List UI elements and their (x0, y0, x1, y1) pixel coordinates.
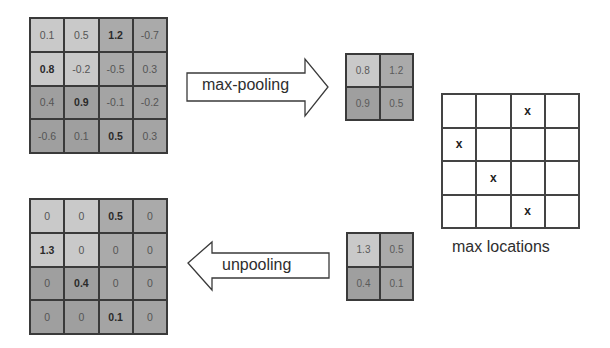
grid-cell: 0 (133, 233, 167, 267)
grid-cell (545, 128, 579, 162)
grid-cell: 0 (133, 267, 167, 301)
grid-cell: 0 (30, 199, 64, 233)
grid-cell (442, 161, 476, 195)
unpooled-output-map: 000.501.300000.400000.10 (29, 198, 168, 335)
max-locations-grid: xxxx (441, 93, 580, 229)
grid-cell: 0 (133, 199, 167, 233)
max-location-marker: x (511, 195, 545, 229)
grid-cell: 0 (64, 300, 98, 334)
grid-cell (476, 94, 510, 128)
grid-cell (511, 161, 545, 195)
grid-cell: 0 (99, 267, 133, 301)
grid-cell: 0 (133, 300, 167, 334)
grid-cell: 0.1 (99, 300, 133, 334)
grid-cell: 0 (64, 233, 98, 267)
max-location-marker: x (442, 128, 476, 162)
grid-cell (545, 161, 579, 195)
grid-cell: 0.4 (64, 267, 98, 301)
grid-cell: 0.4 (347, 267, 380, 301)
max-location-marker: x (511, 94, 545, 128)
grid-cell (511, 128, 545, 162)
grid-cell: 0.5 (380, 87, 414, 120)
grid-cell: 0.5 (380, 233, 413, 267)
grid-cell: 0.9 (346, 87, 380, 120)
grid-cell: 0 (30, 300, 64, 334)
grid-cell: 0 (64, 199, 98, 233)
grid-cell: 0 (30, 267, 64, 301)
grid-cell (442, 195, 476, 229)
grid-cell: 1.2 (380, 54, 414, 87)
grid-cell: 0.5 (99, 199, 133, 233)
grid-cell (442, 94, 476, 128)
max-pooling-label: max-pooling (202, 76, 289, 94)
pooled-feature-map: 0.81.20.90.5 (345, 53, 414, 121)
grid-cell: 0 (99, 233, 133, 267)
grid-cell: 1.3 (347, 233, 380, 267)
unpooling-label: unpooling (222, 256, 291, 274)
grid-cell (545, 195, 579, 229)
grid-cell (476, 195, 510, 229)
grid-cell: 1.3 (30, 233, 64, 267)
unpool-input-map: 1.30.50.40.1 (346, 232, 414, 301)
max-locations-label: max locations (452, 238, 550, 256)
grid-cell (545, 94, 579, 128)
max-location-marker: x (476, 161, 510, 195)
grid-cell: 0.1 (380, 267, 413, 301)
grid-cell: 0.8 (346, 54, 380, 87)
grid-cell (476, 128, 510, 162)
